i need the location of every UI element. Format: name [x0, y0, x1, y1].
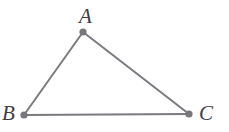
triangle-diagram — [0, 0, 229, 132]
figure-background — [0, 0, 229, 132]
triangle-figure: A B C — [0, 0, 229, 132]
vertex-dot-c — [185, 110, 192, 117]
vertex-label-b: B — [2, 103, 15, 124]
vertex-label-c: C — [199, 103, 213, 124]
edge-bc — [24, 114, 189, 115]
vertex-label-a: A — [79, 6, 92, 27]
vertex-dot-a — [79, 28, 86, 35]
vertex-dot-b — [20, 111, 27, 118]
